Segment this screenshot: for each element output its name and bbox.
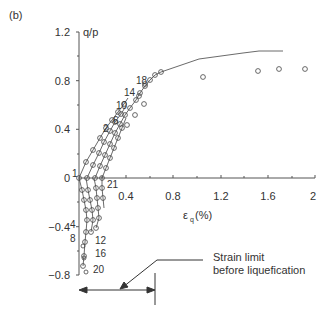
svg-text:−0.4: −0.4 — [48, 221, 70, 233]
svg-text:ε: ε — [183, 209, 188, 221]
svg-text:2: 2 — [103, 123, 109, 134]
svg-text:6: 6 — [113, 115, 119, 126]
y-axis-label: q/p — [83, 26, 98, 38]
svg-text:(%): (%) — [195, 209, 212, 221]
cyclic-loops — [79, 51, 283, 266]
svg-text:0.8: 0.8 — [55, 75, 70, 87]
svg-text:0: 0 — [64, 172, 70, 184]
y-axis — [76, 32, 79, 275]
annotation-line2: before liquefication — [213, 264, 305, 276]
svg-text:−0.8: −0.8 — [48, 269, 70, 281]
svg-text:2: 2 — [310, 190, 316, 202]
svg-text:0.4: 0.4 — [118, 190, 133, 202]
x-tick-labels: 0.4 0.8 1.2 1.6 2 — [118, 190, 316, 202]
annotation-line1: Strain limit — [213, 251, 264, 263]
svg-text:14: 14 — [124, 87, 136, 98]
svg-text:20: 20 — [93, 264, 105, 275]
svg-text:10: 10 — [116, 100, 128, 111]
svg-text:0.8: 0.8 — [165, 190, 180, 202]
svg-text:16: 16 — [95, 248, 107, 259]
svg-text:1: 1 — [72, 168, 78, 179]
svg-text:12: 12 — [95, 235, 107, 246]
svg-text:4: 4 — [70, 219, 76, 230]
svg-text:1.2: 1.2 — [213, 190, 228, 202]
svg-text:8: 8 — [70, 233, 76, 244]
svg-text:1.2: 1.2 — [55, 26, 70, 38]
svg-text:q: q — [190, 216, 194, 224]
svg-text:1.6: 1.6 — [260, 190, 275, 202]
x-axis — [79, 175, 315, 178]
svg-text:21: 21 — [107, 179, 119, 190]
svg-text:0.4: 0.4 — [55, 123, 70, 135]
chart: (b) 1.2 0.8 0.4 0 −0.4 −0.8 q/p — [0, 0, 335, 317]
y-tick-labels: 1.2 0.8 0.4 0 −0.4 −0.8 — [48, 26, 70, 281]
svg-text:18: 18 — [136, 75, 148, 86]
x-axis-label: ε q (%) — [183, 209, 212, 224]
data-markers — [77, 67, 308, 274]
panel-label: (b) — [9, 9, 22, 21]
